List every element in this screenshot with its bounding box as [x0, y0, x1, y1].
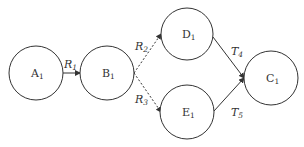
node-b1: B1	[80, 46, 134, 100]
edge-e-c	[214, 78, 244, 111]
edge-label-r2: R2	[134, 40, 148, 54]
edge-label-t4: T4	[231, 45, 243, 59]
edge-label-t5: T5	[231, 106, 243, 120]
node-c1: C1	[244, 51, 298, 105]
node-e1: E1	[160, 85, 214, 139]
node-a1: A1	[9, 46, 63, 100]
edge-label-r3: R3	[134, 93, 148, 107]
edge-label-r1: R1	[63, 58, 77, 72]
diagram-canvas: R1 R2 R3 T4 T5 A1 B1 D1 E1 C1	[0, 0, 304, 147]
node-d1: D1	[161, 8, 213, 60]
